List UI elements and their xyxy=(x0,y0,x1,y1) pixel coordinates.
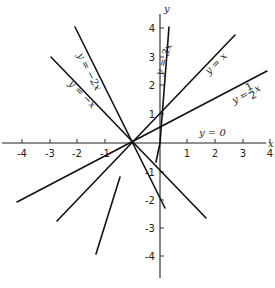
x-tick-label: -3 xyxy=(45,148,55,159)
x-tick-label: 4 xyxy=(267,148,273,159)
y-tick-label: 1 xyxy=(149,109,155,120)
y-tick-label: -3 xyxy=(145,223,155,234)
label-y-x: y = x xyxy=(202,50,229,77)
label-y-0: y = 0 xyxy=(198,127,226,138)
line-y-3x-lower xyxy=(96,177,120,254)
x-tick-label: 2 xyxy=(212,148,218,159)
x-tick-label: 1 xyxy=(184,148,190,159)
y-tick-label: -2 xyxy=(145,195,155,206)
y-tick-label: -4 xyxy=(145,251,155,262)
line-y-half-x xyxy=(17,71,267,202)
x-axis-ticks xyxy=(22,139,270,143)
label-y-3x: y = 3x xyxy=(153,42,174,77)
x-tick-label: -4 xyxy=(17,148,27,159)
y-tick-label: 2 xyxy=(149,80,155,91)
x-tick-label: -2 xyxy=(72,148,82,159)
label-y-half-x: y = 1 2 x xyxy=(227,77,265,109)
x-tick-label: 3 xyxy=(240,148,246,159)
y-axis-label: y xyxy=(163,3,170,14)
y-tick-label: 3 xyxy=(149,52,155,63)
coordinate-plane: -4 -3 -2 -1 1 2 3 4 4 3 2 1 -1 -2 -3 -4 … xyxy=(0,0,275,288)
y-tick-label: 4 xyxy=(149,23,155,34)
line-y-3x-lower-stub xyxy=(156,143,160,162)
x-axis-label: x xyxy=(268,138,274,149)
